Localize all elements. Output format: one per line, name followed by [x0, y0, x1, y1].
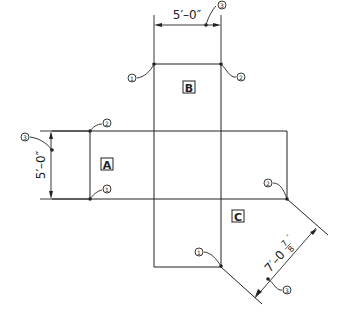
svg-text:C: C [234, 211, 242, 224]
panel-label-b: B [183, 81, 195, 95]
panel-label-c: C [232, 210, 244, 224]
svg-text:2: 2 [239, 74, 243, 81]
callout-c-1: 1 [195, 248, 223, 268]
callout-3-left: 3 [23, 134, 27, 141]
dimension-top-text: 5′–0″ [173, 8, 202, 22]
callout-b-1: 1 [128, 62, 156, 82]
callout-3-top: 3 [220, 2, 224, 9]
dimension-left: 3 5′–0″ [21, 131, 88, 199]
dimension-top: 5′–0″ 3 [154, 1, 226, 62]
callout-a-1: 1 [88, 185, 111, 201]
svg-text:1: 1 [105, 186, 109, 193]
horizontal-strip [52, 131, 287, 199]
svg-text:A: A [103, 159, 112, 172]
svg-text:B: B [185, 82, 193, 95]
dimension-diagonal-inch: ″ [285, 233, 293, 241]
callout-c-2: 2 [264, 179, 289, 201]
svg-text:2: 2 [105, 120, 109, 127]
layout-drawing: 5′–0″ 3 3 5′–0″ 3 7′–0 7 8 ″ [0, 0, 343, 321]
callout-3-diagonal: 3 [285, 287, 289, 294]
dimension-left-text: 5′–0″ [34, 150, 48, 179]
dimension-diagonal: 3 7′–0 7 8 ″ [255, 228, 317, 298]
callout-b-2: 2 [219, 62, 245, 81]
svg-text:2: 2 [266, 180, 270, 187]
dimension-diagonal-text: 7′–0 [262, 248, 288, 275]
svg-text:1: 1 [130, 75, 134, 82]
svg-text:1: 1 [197, 249, 201, 256]
panel-label-a: A [101, 158, 113, 172]
